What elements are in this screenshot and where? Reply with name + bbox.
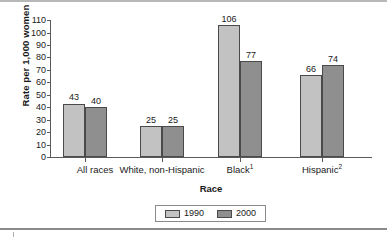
bar-2000-all-races bbox=[85, 107, 107, 157]
plot-area: 110 100 90 80 70 60 50 40 30 20 10 0 43 … bbox=[50, 17, 372, 157]
y-tick-label: 80 bbox=[16, 53, 46, 62]
y-tick-label: 30 bbox=[16, 116, 46, 125]
bar-value-label: 25 bbox=[162, 115, 184, 125]
x-tick-mark bbox=[162, 158, 163, 162]
y-tick-label: 100 bbox=[16, 29, 46, 38]
category-text: Black bbox=[227, 164, 250, 175]
bar-value-label: 106 bbox=[218, 14, 240, 24]
bar-2000-hispanic bbox=[322, 65, 344, 157]
x-category-label-black: Black1 bbox=[195, 164, 285, 175]
category-text: Hispanic bbox=[302, 164, 338, 175]
y-tick-label: 0 bbox=[16, 153, 46, 162]
x-axis-title: Race bbox=[50, 183, 372, 194]
y-tick-mark bbox=[47, 107, 51, 108]
bar-value-label: 25 bbox=[140, 115, 162, 125]
footnote-marker: 1 bbox=[250, 163, 254, 170]
legend-swatch-icon bbox=[165, 210, 180, 218]
bar-2000-white-non-hispanic bbox=[162, 126, 184, 157]
legend-item-2000: 2000 bbox=[217, 209, 256, 218]
bar-1990-white-non-hispanic bbox=[140, 126, 162, 157]
x-tick-mark bbox=[322, 158, 323, 162]
y-tick-mark bbox=[47, 33, 51, 34]
chart-figure: Rate per 1,000 women 110 100 90 80 70 60… bbox=[0, 0, 387, 241]
x-tick-mark bbox=[85, 158, 86, 162]
y-axis-line bbox=[50, 20, 51, 157]
bar-value-label: 74 bbox=[322, 54, 344, 64]
bar-1990-all-races bbox=[63, 104, 85, 158]
y-tick-mark bbox=[47, 132, 51, 133]
top-divider bbox=[0, 0, 387, 2]
bar-value-label: 43 bbox=[63, 92, 85, 102]
y-tick-mark bbox=[47, 145, 51, 146]
y-tick-mark bbox=[47, 70, 51, 71]
y-tick-mark bbox=[47, 82, 51, 83]
bar-value-label: 77 bbox=[240, 50, 262, 60]
category-text: White, non-Hispanic bbox=[119, 164, 204, 175]
y-tick-mark bbox=[47, 57, 51, 58]
x-tick-mark bbox=[240, 158, 241, 162]
y-tick-label: 110 bbox=[16, 16, 46, 25]
bar-value-label: 66 bbox=[300, 64, 322, 74]
legend-label: 1990 bbox=[184, 209, 204, 218]
footnote-marker: 2 bbox=[338, 163, 342, 170]
bottom-tick-mark bbox=[13, 232, 14, 237]
bar-value-label: 40 bbox=[85, 96, 107, 106]
y-tick-mark bbox=[47, 120, 51, 121]
y-tick-mark bbox=[47, 45, 51, 46]
bar-1990-hispanic bbox=[300, 75, 322, 157]
legend-swatch-icon bbox=[217, 210, 232, 218]
bottom-divider bbox=[0, 228, 387, 230]
y-tick-label: 90 bbox=[16, 41, 46, 50]
x-axis-line bbox=[50, 157, 372, 158]
y-tick-mark bbox=[47, 95, 51, 96]
y-tick-label: 40 bbox=[16, 103, 46, 112]
bar-1990-black bbox=[218, 25, 240, 157]
chart-legend: 1990 2000 bbox=[155, 205, 266, 222]
legend-label: 2000 bbox=[236, 209, 256, 218]
y-tick-label: 10 bbox=[16, 141, 46, 150]
y-tick-label: 70 bbox=[16, 66, 46, 75]
bar-2000-black bbox=[240, 61, 262, 157]
legend-item-1990: 1990 bbox=[165, 209, 204, 218]
y-tick-mark bbox=[47, 20, 51, 21]
y-tick-label: 60 bbox=[16, 78, 46, 87]
y-tick-label: 50 bbox=[16, 91, 46, 100]
y-tick-label: 20 bbox=[16, 128, 46, 137]
x-category-label-hispanic: Hispanic2 bbox=[277, 164, 367, 175]
y-tick-mark bbox=[47, 157, 51, 158]
